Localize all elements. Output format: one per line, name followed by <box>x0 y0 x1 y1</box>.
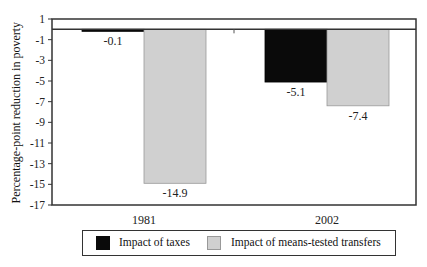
bar-chart: 1-1-3-5-7-9-11-13-15-17-0.1-14.91981-5.1… <box>0 0 427 267</box>
legend-label-transfers: Impact of means-tested transfers <box>231 236 381 248</box>
x-tick-label: 2002 <box>315 213 339 227</box>
y-tick-label: 1 <box>39 13 45 25</box>
legend: Impact of taxes Impact of means-tested t… <box>82 230 396 256</box>
bar-taxes-2002 <box>265 29 327 82</box>
legend-label-taxes: Impact of taxes <box>119 236 190 248</box>
y-tick-label: -17 <box>30 199 46 211</box>
legend-swatch-taxes <box>96 236 110 250</box>
bar-transfers-1981 <box>144 29 206 183</box>
bar-transfers-2002 <box>327 29 389 105</box>
y-tick-label: -13 <box>30 158 46 170</box>
data-label: -7.4 <box>349 109 368 123</box>
legend-swatch-transfers <box>207 236 221 250</box>
data-label: -0.1 <box>104 34 123 48</box>
data-label: -14.9 <box>163 186 188 200</box>
x-tick-label: 1981 <box>132 213 156 227</box>
y-axis-label: Percentage-point reduction in poverty <box>9 24 24 204</box>
y-tick-label: -11 <box>30 137 45 149</box>
data-label: -5.1 <box>287 85 306 99</box>
y-tick-label: -15 <box>30 178 46 190</box>
y-tick-label: -9 <box>35 116 45 128</box>
y-tick-label: -7 <box>35 96 45 108</box>
y-tick-label: -3 <box>35 54 45 66</box>
y-tick-label: -5 <box>35 75 45 87</box>
y-tick-label: -1 <box>35 34 45 46</box>
